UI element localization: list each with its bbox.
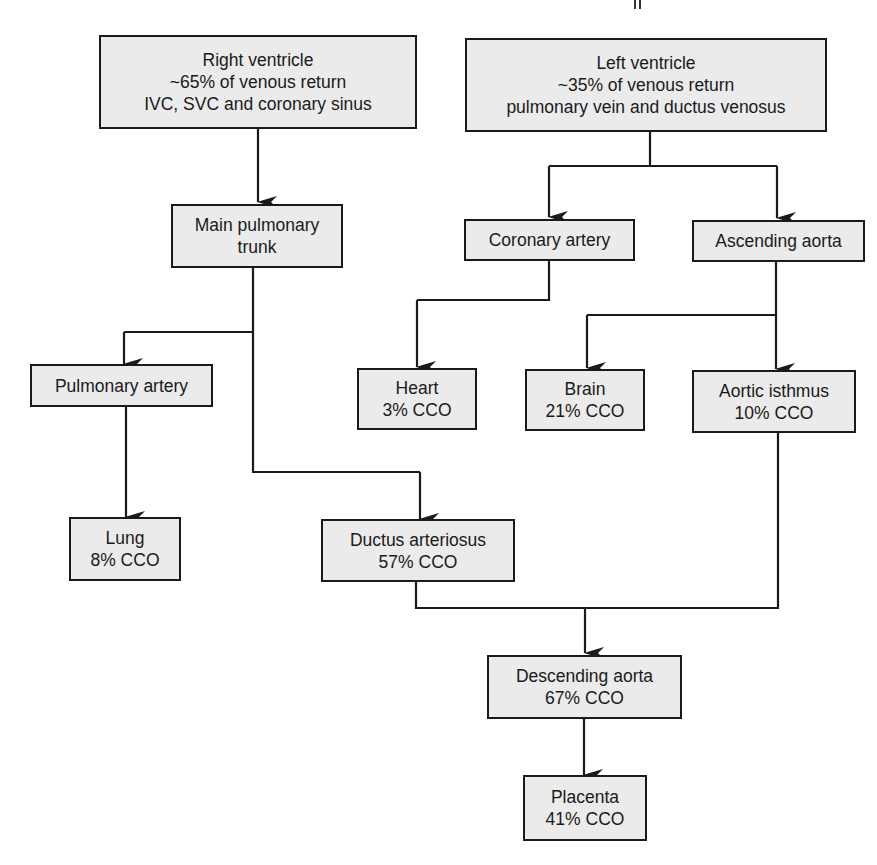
node-detail: ~65% of venous return bbox=[170, 71, 347, 93]
node-main-pulmonary-trunk: Main pulmonary trunk bbox=[171, 204, 343, 268]
node-value: 3% CCO bbox=[382, 399, 451, 421]
node-title: Heart bbox=[396, 377, 439, 399]
node-title: trunk bbox=[238, 236, 277, 258]
node-title: Left ventricle bbox=[596, 52, 695, 74]
node-title: Main pulmonary bbox=[195, 214, 320, 236]
node-right-ventricle: Right ventricle ~65% of venous return IV… bbox=[99, 35, 417, 129]
node-left-ventricle: Left ventricle ~35% of venous return pul… bbox=[465, 38, 827, 132]
node-placenta: Placenta 41% CCO bbox=[523, 775, 647, 841]
node-heart: Heart 3% CCO bbox=[357, 368, 477, 430]
node-title: Brain bbox=[565, 378, 606, 400]
node-ductus-arteriosus: Ductus arteriosus 57% CCO bbox=[321, 519, 515, 582]
node-detail: IVC, SVC and coronary sinus bbox=[144, 93, 372, 115]
node-title: Right ventricle bbox=[203, 49, 314, 71]
node-title: Aortic isthmus bbox=[719, 380, 829, 402]
node-detail: pulmonary vein and ductus venosus bbox=[506, 96, 785, 118]
node-value: 21% CCO bbox=[546, 400, 625, 422]
node-title: Coronary artery bbox=[489, 229, 611, 251]
node-title: Placenta bbox=[551, 786, 619, 808]
node-value: 67% CCO bbox=[545, 687, 624, 709]
node-lung: Lung 8% CCO bbox=[69, 517, 181, 581]
node-detail: ~35% of venous return bbox=[558, 74, 735, 96]
node-value: 57% CCO bbox=[379, 551, 458, 573]
node-brain: Brain 21% CCO bbox=[525, 369, 645, 431]
node-value: 41% CCO bbox=[546, 808, 625, 830]
line-ascending-stem bbox=[587, 261, 776, 315]
node-title: Pulmonary artery bbox=[55, 375, 188, 397]
node-pulmonary-artery: Pulmonary artery bbox=[30, 364, 213, 407]
node-coronary-artery: Coronary artery bbox=[464, 219, 635, 261]
node-title: Descending aorta bbox=[516, 665, 653, 687]
fetal-circulation-flowchart: Right ventricle ~65% of venous return IV… bbox=[0, 0, 877, 865]
node-value: 10% CCO bbox=[735, 402, 814, 424]
node-value: 8% CCO bbox=[90, 549, 159, 571]
line-coronary-stem bbox=[417, 260, 549, 300]
node-ascending-aorta: Ascending aorta bbox=[692, 220, 865, 262]
node-title: Lung bbox=[106, 527, 145, 549]
node-aortic-isthmus: Aortic isthmus 10% CCO bbox=[692, 370, 856, 433]
node-descending-aorta: Descending aorta 67% CCO bbox=[487, 655, 682, 719]
node-title: Ductus arteriosus bbox=[350, 529, 486, 551]
node-title: Ascending aorta bbox=[715, 230, 841, 252]
